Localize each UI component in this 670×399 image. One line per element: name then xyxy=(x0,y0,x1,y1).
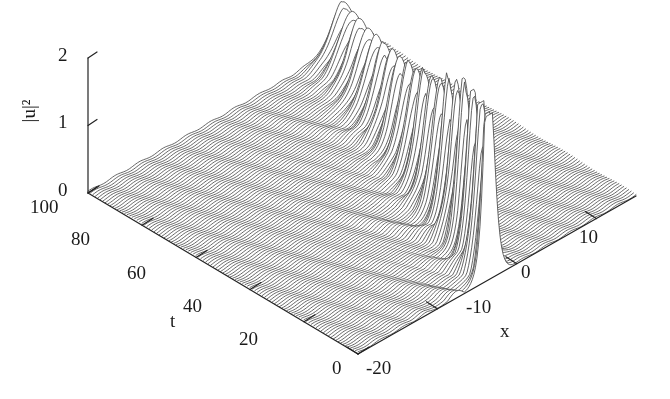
t-tick-60: 60 xyxy=(127,262,146,284)
z-tick-2: 2 xyxy=(58,44,68,66)
x-tick-minus10: -10 xyxy=(466,296,491,318)
x-tick-10: 10 xyxy=(579,226,598,248)
t-tick-40: 40 xyxy=(183,295,202,317)
t-tick-80: 80 xyxy=(71,228,90,250)
z-tick-0: 0 xyxy=(58,179,68,201)
t-tick-100: 100 xyxy=(30,196,59,218)
t-tick-0: 0 xyxy=(332,357,342,379)
t-axis-label: t xyxy=(170,310,175,332)
surface-plot-figure: 2 1 0 |u|² 100 80 60 40 20 0 t -20 -10 0… xyxy=(0,0,670,399)
z-axis-label: |u|² xyxy=(18,100,40,123)
x-axis-label: x xyxy=(500,320,510,342)
t-tick-20: 20 xyxy=(239,328,258,350)
x-tick-minus20: -20 xyxy=(366,357,391,379)
z-tick-1: 1 xyxy=(58,111,68,133)
x-tick-0: 0 xyxy=(521,261,531,283)
surface-plot-canvas xyxy=(0,0,670,399)
